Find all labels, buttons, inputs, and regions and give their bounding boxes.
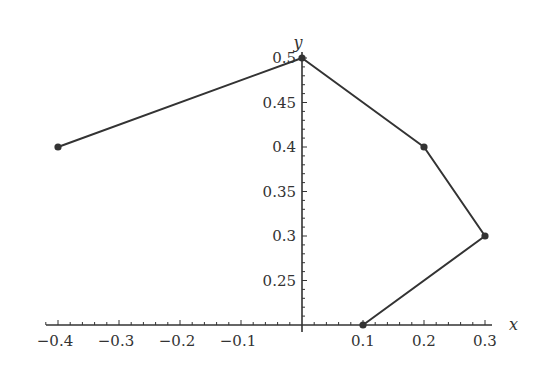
y-tick-label: 0.25	[263, 272, 296, 290]
x-axis-label: x	[509, 315, 518, 334]
x-tick-label: −0.1	[220, 332, 256, 350]
y-tick-label: 0.35	[263, 183, 296, 201]
data-point-marker	[420, 143, 427, 150]
y-tick-label: 0.45	[263, 94, 296, 112]
data-point-marker	[298, 54, 305, 61]
line-chart: −0.4−0.3−0.2−0.10.10.20.3 0.250.30.350.4…	[0, 0, 547, 377]
y-axis-tick-labels: 0.250.30.350.40.450.5	[263, 49, 296, 290]
data-point-marker	[481, 232, 488, 239]
x-tick-label: −0.3	[98, 332, 134, 350]
x-tick-label: −0.4	[37, 332, 73, 350]
data-point-marker	[359, 321, 366, 328]
data-point-marker	[54, 143, 61, 150]
x-tick-label: 0.1	[351, 332, 375, 350]
x-tick-label: 0.2	[412, 332, 436, 350]
x-tick-label: 0.3	[473, 332, 497, 350]
y-tick-label: 0.3	[272, 227, 296, 245]
y-tick-label: 0.4	[272, 138, 296, 156]
x-axis-tick-labels: −0.4−0.3−0.2−0.10.10.20.3	[37, 332, 497, 350]
y-axis-label: y	[292, 33, 303, 52]
x-tick-label: −0.2	[159, 332, 195, 350]
